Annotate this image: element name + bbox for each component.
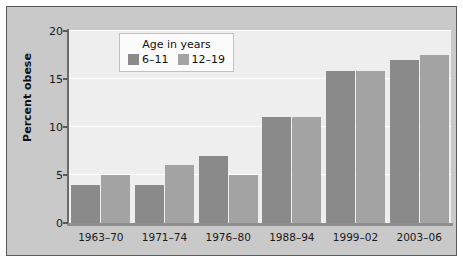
legend-title: Age in years	[128, 38, 225, 51]
gridline	[69, 30, 451, 31]
legend-swatch	[178, 54, 189, 65]
y-axis-tick-label: 5	[11, 169, 63, 182]
bar	[101, 175, 130, 223]
chart-panel: 05101520 Percent obese 1963–701971–74197…	[6, 6, 457, 256]
legend-label: 6–11	[142, 53, 169, 66]
x-axis-tick-label: 1963–70	[78, 231, 123, 243]
bar	[135, 185, 164, 223]
y-axis-tick-mark	[63, 222, 68, 224]
y-axis-tick-mark	[63, 30, 68, 32]
chart-figure: 05101520 Percent obese 1963–701971–74197…	[0, 0, 463, 262]
y-axis-tick-mark	[63, 78, 68, 80]
bar	[292, 117, 321, 223]
bar	[229, 175, 258, 223]
bar	[165, 165, 194, 223]
bar	[199, 156, 228, 223]
x-axis-tick-label: 1971–74	[142, 231, 187, 243]
bar	[326, 71, 355, 223]
x-axis-tick-label: 1976–80	[205, 231, 250, 243]
bar	[262, 117, 291, 223]
bar	[390, 60, 419, 223]
y-axis-tick-label: 0	[11, 217, 63, 230]
y-axis-tick-mark	[63, 126, 68, 128]
x-axis-tick-labels: 1963–701971–741976–801988–941999–022003–…	[69, 231, 451, 249]
x-axis-tick-label: 2003–06	[396, 231, 441, 243]
x-axis-tick-label: 1999–02	[333, 231, 378, 243]
x-axis-line	[67, 223, 453, 226]
bar	[356, 71, 385, 223]
bar	[71, 185, 100, 223]
x-axis-tick-label: 1988–94	[269, 231, 314, 243]
legend-swatch	[128, 54, 139, 65]
y-axis-tick-label: 20	[11, 25, 63, 38]
legend-entry: 12–19	[178, 53, 226, 66]
bar	[420, 55, 449, 223]
legend-entries: 6–1112–19	[128, 53, 225, 66]
legend-label: 12–19	[192, 53, 226, 66]
legend-entry: 6–11	[128, 53, 169, 66]
y-axis-tick-mark	[63, 174, 68, 176]
y-axis-tick-label: 15	[11, 73, 63, 86]
y-axis-ticks: 05101520	[7, 31, 63, 223]
chart-legend: Age in years 6–1112–19	[119, 33, 234, 72]
y-axis-tick-label: 10	[11, 121, 63, 134]
y-axis-title: Percent obese	[21, 42, 34, 154]
